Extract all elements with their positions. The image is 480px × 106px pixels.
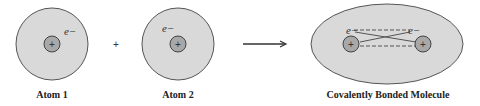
atom-1-label: Atom 1 [36, 89, 67, 100]
atom-2-electron-label: e− [162, 22, 174, 34]
atom-1-electron-label: e− [64, 25, 76, 37]
atom-1-nucleus-symbol: + [49, 39, 55, 50]
covalent-molecule: + + e− e− Covalently Bonded Molecule [311, 4, 463, 100]
molecule-electron-label-left: e− [346, 24, 358, 36]
atom-1: + e− Atom 1 [16, 8, 88, 100]
molecule-electron-cloud [311, 4, 463, 84]
molecule-electron-label-right: e− [408, 24, 420, 36]
molecule-nucleus-left-symbol: + [348, 39, 354, 50]
plus-operator: + [113, 39, 119, 50]
covalent-bond-diagram: + e− Atom 1 + + e− Atom 2 + + e− e− Cova… [0, 0, 480, 106]
atom-2: + e− Atom 2 [142, 8, 214, 100]
molecule-label: Covalently Bonded Molecule [327, 89, 450, 100]
reaction-arrow-icon [243, 41, 286, 47]
atom-2-nucleus-symbol: + [175, 39, 181, 50]
atom-2-label: Atom 2 [162, 89, 193, 100]
molecule-nucleus-right-symbol: + [420, 39, 426, 50]
